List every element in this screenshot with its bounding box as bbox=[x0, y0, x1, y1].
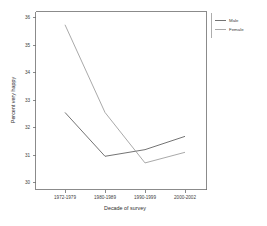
line-chart: 36 35 34 33 32 31 30 Percent very happy … bbox=[0, 0, 267, 226]
series-lines bbox=[65, 25, 185, 163]
x-axis-tick-labels: 1972-1979 1980-1989 1990-1999 2000-2002 bbox=[54, 195, 196, 200]
x-tick-label: 1972-1979 bbox=[54, 195, 76, 200]
y-axis-tick-labels: 36 35 34 33 32 31 30 bbox=[25, 15, 31, 185]
series-line-male bbox=[65, 112, 185, 156]
legend-label-male: Male bbox=[229, 18, 239, 23]
y-tick-label: 35 bbox=[25, 43, 31, 48]
legend: Male Female bbox=[212, 13, 245, 38]
y-axis-title: Percent very happy bbox=[10, 76, 16, 123]
plot-frame bbox=[36, 12, 207, 190]
y-axis-ticks bbox=[33, 18, 36, 183]
x-tick-label: 1980-1989 bbox=[94, 195, 116, 200]
y-tick-label: 30 bbox=[25, 180, 31, 185]
legend-label-female: Female bbox=[229, 27, 244, 32]
y-tick-label: 34 bbox=[25, 70, 31, 75]
x-axis-title: Decade of survey bbox=[104, 205, 146, 211]
y-tick-label: 31 bbox=[25, 153, 31, 158]
y-tick-label: 33 bbox=[25, 98, 31, 103]
y-axis-title-group: Percent very happy bbox=[10, 76, 16, 123]
x-axis-ticks bbox=[65, 190, 185, 193]
y-tick-label: 36 bbox=[25, 15, 31, 20]
x-tick-label: 1990-1999 bbox=[134, 195, 156, 200]
x-tick-label: 2000-2002 bbox=[174, 195, 196, 200]
chart-figure: 36 35 34 33 32 31 30 Percent very happy … bbox=[0, 0, 267, 226]
y-tick-label: 32 bbox=[25, 125, 31, 130]
